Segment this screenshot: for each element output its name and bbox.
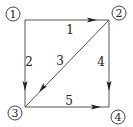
edge-3-label: 3: [56, 54, 64, 68]
edge-2-label: 2: [25, 55, 33, 69]
graph-diagram: 1 2 3 4 1 2 3 4 5: [0, 0, 133, 127]
edge-4-label: 4: [97, 55, 105, 69]
edge-5-label: 5: [65, 94, 73, 108]
node-2-label: 2: [116, 7, 123, 20]
node-3-label: 3: [12, 107, 19, 120]
edge-3-arrowhead-icon: [39, 83, 47, 92]
node-4-label: 4: [115, 111, 122, 124]
edge-1-label: 1: [66, 23, 74, 37]
node-1-label: 1: [10, 8, 17, 21]
